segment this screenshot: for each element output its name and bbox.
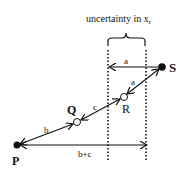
label-b: b: [44, 125, 49, 135]
point-s: [158, 63, 166, 71]
label-q: Q: [67, 103, 76, 117]
label-s: S: [169, 60, 176, 75]
arrow-c: [81, 99, 120, 120]
label-p: P: [12, 154, 19, 168]
label-c: c: [93, 102, 97, 112]
label-b-plus-c: b+c: [78, 149, 92, 159]
label-a-horizontal: a: [124, 56, 128, 66]
uncertainty-diagram: uncertainty in xr a a c b b+c S R Q P: [0, 0, 189, 175]
point-r: [121, 94, 128, 101]
point-p: [14, 142, 21, 149]
point-q: [74, 119, 81, 126]
uncertainty-brace: [108, 33, 145, 46]
label-r: R: [122, 102, 130, 116]
label-a-diagonal: a: [131, 77, 135, 87]
uncertainty-label: uncertainty in xr: [86, 13, 152, 26]
